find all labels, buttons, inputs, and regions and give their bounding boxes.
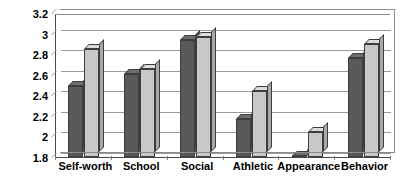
x-axis-tick-label: Social bbox=[181, 160, 213, 172]
x-axis-tick-mark bbox=[334, 156, 335, 160]
x-axis-tick-mark bbox=[223, 156, 224, 160]
y-axis-tick-label: 2.6 bbox=[26, 70, 48, 82]
bars-layer bbox=[56, 14, 390, 157]
x-axis-tick-label: Appearance bbox=[277, 160, 340, 172]
y-axis-tick-label: 2.2 bbox=[26, 111, 48, 123]
x-axis-tick-mark bbox=[111, 156, 112, 160]
x-axis-tick-label: School bbox=[123, 160, 160, 172]
y-axis-tick-label: 2.4 bbox=[26, 90, 48, 102]
y-axis-tick-label: 3 bbox=[26, 29, 48, 41]
y-axis-tick-label: 2 bbox=[26, 131, 48, 143]
bar-face bbox=[364, 44, 379, 157]
x-axis-tick-label: Athletic bbox=[233, 160, 273, 172]
bar-chart: Mean score 3.232.82.62.42.221.8 Self-wor… bbox=[0, 0, 410, 193]
y-axis-tick-label: 3.2 bbox=[26, 8, 48, 20]
gridline bbox=[61, 9, 391, 10]
x-axis-tick-label: Behavior bbox=[341, 160, 388, 172]
bar-side bbox=[379, 34, 384, 152]
x-axis-tick-label: Self-worth bbox=[59, 160, 113, 172]
x-axis-tick-mark bbox=[390, 156, 391, 160]
x-axis-tick-mark bbox=[55, 156, 56, 160]
bar bbox=[348, 58, 363, 157]
bar-group bbox=[56, 14, 391, 157]
plot-area bbox=[55, 14, 390, 158]
x-axis-tick-mark bbox=[167, 156, 168, 160]
bar-face bbox=[348, 58, 363, 157]
x-axis-tick-labels: Self-worthSchoolSocialAthleticAppearance… bbox=[0, 160, 410, 178]
x-axis-tick-mark bbox=[278, 156, 279, 160]
bar bbox=[364, 44, 379, 157]
y-axis-tick-label: 2.8 bbox=[26, 49, 48, 61]
